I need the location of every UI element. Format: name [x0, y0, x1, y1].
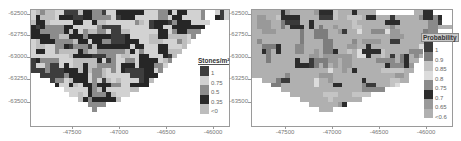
legend-swatch	[200, 104, 209, 114]
legend-swatch	[424, 71, 433, 81]
y-tick-mark	[248, 102, 251, 103]
y-tick-mark	[248, 14, 251, 15]
legend-swatch	[424, 52, 433, 62]
legend-label: 0.85	[435, 66, 447, 72]
legend-label: <0.6	[435, 114, 447, 120]
x-tick-label: -47500	[57, 129, 87, 135]
legend-swatch	[424, 109, 433, 119]
y-tick-mark	[27, 14, 30, 15]
y-tick-mark	[248, 35, 251, 36]
y-tick-label: -62500	[220, 10, 248, 16]
legend-swatch	[200, 66, 209, 76]
x-tick-mark	[285, 126, 286, 129]
x-tick-label: -46000	[411, 129, 441, 135]
legend-label: 1	[211, 70, 214, 76]
legend-label: 0.5	[211, 89, 219, 95]
y-tick-mark	[27, 57, 30, 58]
x-tick-label: -46500	[364, 129, 394, 135]
y-tick-label: -62750	[220, 31, 248, 37]
legend-swatch	[424, 80, 433, 90]
legend-swatch	[424, 42, 433, 52]
stones-map-panel: -62500-62750-63000-63250-63500 -47500-47…	[0, 0, 230, 141]
x-tick-label: -47000	[317, 129, 347, 135]
legend-label: 0.7	[435, 95, 443, 101]
y-tick-label: -63250	[0, 75, 27, 81]
x-tick-mark	[72, 126, 73, 129]
y-tick-mark	[27, 102, 30, 103]
x-tick-mark	[213, 126, 214, 129]
legend-label: 1	[435, 47, 438, 53]
y-tick-label: -63250	[220, 75, 248, 81]
legend-swatch	[200, 85, 209, 95]
y-tick-label: -62750	[0, 31, 27, 37]
y-tick-mark	[248, 57, 251, 58]
x-tick-mark	[119, 126, 120, 129]
x-tick-mark	[379, 126, 380, 129]
y-tick-label: -63500	[220, 98, 248, 104]
legend-swatch	[424, 61, 433, 71]
legend-label: <0	[211, 108, 218, 114]
legend-label: 0.75	[435, 85, 447, 91]
legend-label: 0.8	[435, 76, 443, 82]
legend-swatch	[424, 99, 433, 109]
x-tick-label: -47000	[104, 129, 134, 135]
probability-legend-title: Probability	[421, 33, 459, 42]
probability-map-plot	[251, 9, 453, 127]
y-tick-label: -63500	[0, 98, 27, 104]
legend-label: 0.65	[435, 104, 447, 110]
y-tick-label: -63000	[220, 53, 248, 59]
y-tick-mark	[248, 79, 251, 80]
x-tick-mark	[332, 126, 333, 129]
legend-swatch	[200, 95, 209, 105]
raster-grid	[252, 10, 452, 126]
x-tick-mark	[426, 126, 427, 129]
legend-swatch	[424, 90, 433, 100]
x-tick-label: -47500	[270, 129, 300, 135]
y-tick-label: -62500	[0, 10, 27, 16]
y-tick-label: -63000	[0, 53, 27, 59]
y-tick-mark	[27, 35, 30, 36]
x-tick-label: -46500	[151, 129, 181, 135]
x-tick-mark	[166, 126, 167, 129]
legend-swatch	[200, 76, 209, 86]
probability-map-panel: -62500-62750-63000-63250-63500 -47500-47…	[230, 0, 461, 141]
y-tick-mark	[27, 79, 30, 80]
x-tick-label: -46000	[198, 129, 228, 135]
legend-label: 0.9	[435, 57, 443, 63]
